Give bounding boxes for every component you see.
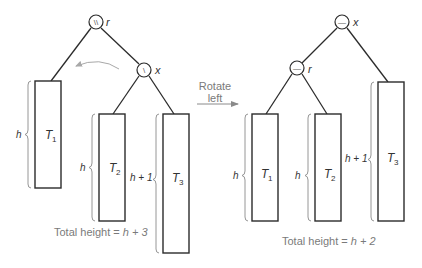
rotate-left-indicator: Rotate left <box>197 80 238 104</box>
node-label-x: x <box>352 16 359 28</box>
rotate-label-line1: Rotate <box>199 80 231 92</box>
subtree-subscript: 1 <box>52 135 57 144</box>
subtree-subscript: 2 <box>116 168 121 177</box>
height-brace <box>153 114 159 253</box>
subtree-t2-after: T 2 h <box>295 114 341 221</box>
rotate-label-line2: left <box>208 92 223 104</box>
before-tree: \\ r \ x T 1 h T 2 h T 3 <box>16 15 189 253</box>
node-x-after: — x <box>335 15 359 29</box>
edge-x-t3 <box>149 76 174 114</box>
height-brace <box>89 114 95 221</box>
subtree-t1-after: T 1 h <box>233 114 278 221</box>
height-label: h <box>233 170 239 181</box>
edge-r-x <box>101 28 139 64</box>
subtree-t3-after: T 3 h + 1 <box>345 82 404 221</box>
total-height-after: Total height = h + 2 <box>282 235 376 247</box>
height-label: h <box>80 162 86 173</box>
total-height-value: h + 2 <box>351 235 376 247</box>
subtree-t1-before: T 1 h <box>16 81 61 188</box>
rotation-arc-icon <box>76 62 119 69</box>
node-label-r: r <box>106 16 111 28</box>
edge-r-t1 <box>266 74 292 114</box>
node-r-after: — r <box>290 61 313 75</box>
height-label: h + 1 <box>130 172 153 183</box>
edge-r-t1 <box>51 28 91 81</box>
height-label: h <box>16 129 22 140</box>
subtree-subscript: 2 <box>331 174 336 183</box>
after-tree: — x — r T 1 h T 2 h T 3 <box>233 15 404 247</box>
node-label-r: r <box>308 63 313 75</box>
subtree-subscript: 1 <box>268 174 273 183</box>
balance-symbol-balanced: — <box>338 18 346 27</box>
balance-symbol-double-right: \\ <box>94 18 99 27</box>
height-label: h <box>295 170 301 181</box>
avl-rotation-diagram: \\ r \ x T 1 h T 2 h T 3 <box>0 0 422 268</box>
total-height-before: Total height = h + 3 <box>54 226 148 238</box>
height-brace <box>25 81 31 188</box>
subtree-subscript: 3 <box>394 158 399 167</box>
subtree-t2-before: T 2 h <box>80 114 125 221</box>
edge-r-t2 <box>302 74 327 114</box>
node-label-x: x <box>154 64 161 76</box>
edge-x-t2 <box>113 76 139 114</box>
height-brace <box>305 114 311 221</box>
node-r-before: \\ r <box>89 15 111 29</box>
edge-x-r <box>302 28 337 63</box>
balance-symbol-balanced: — <box>293 64 301 73</box>
subtree-subscript: 3 <box>179 178 184 187</box>
edge-x-t3 <box>347 28 388 82</box>
height-brace <box>368 82 374 221</box>
total-height-value: h + 3 <box>123 226 149 238</box>
height-label: h + 1 <box>345 153 368 164</box>
height-brace <box>242 114 248 221</box>
node-x-before: \ x <box>137 63 161 77</box>
